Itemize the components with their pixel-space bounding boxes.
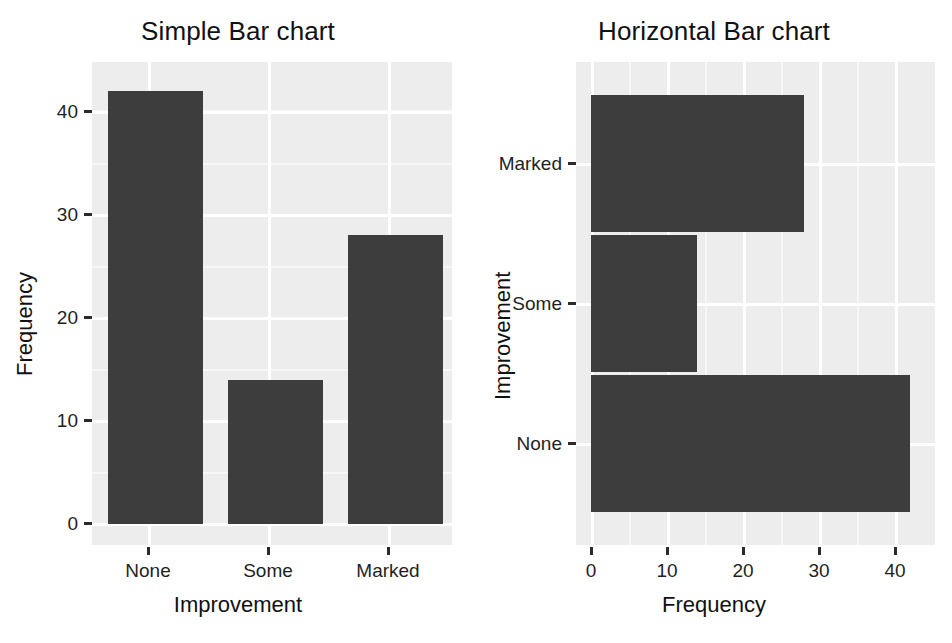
right-xtick-label-10: 10 xyxy=(637,560,697,582)
right-xtick-mark-30 xyxy=(818,547,821,555)
right-xtick-label-0: 0 xyxy=(561,560,621,582)
left-ytick-mark-40 xyxy=(84,110,92,113)
right-xtick-label-40: 40 xyxy=(865,560,925,582)
right-ytick-label-some: Some xyxy=(476,293,562,315)
left-xtick-mark-none xyxy=(147,547,150,555)
left-ytick-mark-10 xyxy=(84,419,92,422)
left-chart-title: Simple Bar chart xyxy=(0,16,476,47)
right-xaxis-title: Frequency xyxy=(476,592,952,618)
bar-some xyxy=(228,380,323,524)
bar-some xyxy=(591,235,697,372)
right-ytick-mark-marked xyxy=(568,162,576,165)
right-xtick-mark-0 xyxy=(590,547,593,555)
left-ytick-mark-0 xyxy=(84,522,92,525)
left-xtick-label-marked: Marked xyxy=(328,560,448,582)
left-plot-panel xyxy=(92,62,452,545)
right-chart-title: Horizontal Bar chart xyxy=(476,16,952,47)
right-xtick-mark-40 xyxy=(894,547,897,555)
left-xtick-mark-marked xyxy=(387,547,390,555)
bar-none xyxy=(108,91,203,524)
left-ytick-mark-30 xyxy=(84,213,92,216)
right-yaxis-title: Improvement xyxy=(490,272,516,400)
right-xtick-mark-20 xyxy=(742,547,745,555)
right-plot-panel xyxy=(576,62,935,545)
right-ytick-mark-none xyxy=(568,442,576,445)
left-xtick-mark-some xyxy=(267,547,270,555)
figure-root: Simple Bar chart 4 xyxy=(0,0,952,643)
left-ytick-label-30: 30 xyxy=(24,204,78,226)
right-xtick-label-30: 30 xyxy=(789,560,849,582)
left-xtick-label-none: None xyxy=(88,560,208,582)
left-xtick-label-some: Some xyxy=(208,560,328,582)
right-ytick-label-none: None xyxy=(476,433,562,455)
left-yaxis-title: Frequency xyxy=(12,272,38,376)
left-xaxis-title: Improvement xyxy=(0,592,476,618)
right-xtick-label-20: 20 xyxy=(713,560,773,582)
right-ytick-mark-some xyxy=(568,302,576,305)
left-ytick-label-0: 0 xyxy=(24,513,78,535)
simple-bar-chart-figure: Simple Bar chart 4 xyxy=(0,0,476,643)
bar-marked xyxy=(348,235,443,524)
left-ytick-label-10: 10 xyxy=(24,410,78,432)
bar-marked xyxy=(591,95,804,232)
left-ytick-label-40: 40 xyxy=(24,101,78,123)
left-ytick-mark-20 xyxy=(84,316,92,319)
right-xtick-mark-10 xyxy=(666,547,669,555)
horizontal-bar-chart-figure: Horizontal Bar chart Marked Som xyxy=(476,0,952,643)
bar-none xyxy=(591,375,910,512)
right-ytick-label-marked: Marked xyxy=(476,153,562,175)
